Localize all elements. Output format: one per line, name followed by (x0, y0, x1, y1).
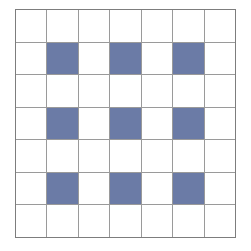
grid-cell-empty[interactable] (110, 10, 141, 42)
grid-cell-empty[interactable] (78, 172, 109, 204)
grid-cell-empty[interactable] (47, 10, 78, 42)
grid-cell-empty[interactable] (204, 10, 235, 42)
grid-cell-empty[interactable] (141, 140, 172, 172)
grid-cell-empty[interactable] (141, 205, 172, 237)
grid-cell-empty[interactable] (16, 172, 47, 204)
grid-cell-filled[interactable] (47, 107, 78, 139)
grid-cell-empty[interactable] (141, 172, 172, 204)
grid-cell-filled[interactable] (47, 42, 78, 74)
grid-cell-empty[interactable] (110, 75, 141, 107)
grid-cell-empty[interactable] (16, 107, 47, 139)
grid-figure (15, 9, 236, 238)
grid-cell-empty[interactable] (204, 107, 235, 139)
grid-row (16, 107, 235, 139)
grid-row (16, 140, 235, 172)
grid-cell-filled[interactable] (110, 42, 141, 74)
grid-cell-empty[interactable] (78, 205, 109, 237)
grid-cell-empty[interactable] (78, 140, 109, 172)
grid-cell-empty[interactable] (204, 75, 235, 107)
grid-cell-empty[interactable] (110, 140, 141, 172)
grid-cell-empty[interactable] (173, 140, 204, 172)
grid-cell-empty[interactable] (141, 10, 172, 42)
grid-cell-empty[interactable] (78, 10, 109, 42)
grid-cell-empty[interactable] (173, 205, 204, 237)
grid-cell-filled[interactable] (110, 107, 141, 139)
grid-cell-empty[interactable] (47, 75, 78, 107)
grid-cell-filled[interactable] (173, 42, 204, 74)
grid-cell-empty[interactable] (173, 75, 204, 107)
grid-cell-empty[interactable] (16, 140, 47, 172)
grid-cell-empty[interactable] (204, 205, 235, 237)
grid-cell-empty[interactable] (173, 10, 204, 42)
grid-cell-filled[interactable] (173, 107, 204, 139)
grid-cell-filled[interactable] (173, 172, 204, 204)
grid-row (16, 172, 235, 204)
grid-cell-empty[interactable] (16, 205, 47, 237)
grid-row (16, 10, 235, 42)
grid-cell-empty[interactable] (110, 205, 141, 237)
grid-cell-filled[interactable] (47, 172, 78, 204)
grid-cell-empty[interactable] (141, 75, 172, 107)
grid-cell-empty[interactable] (16, 75, 47, 107)
grid-table (16, 10, 235, 237)
grid-cell-empty[interactable] (47, 205, 78, 237)
grid-cell-empty[interactable] (47, 140, 78, 172)
grid-row (16, 205, 235, 237)
grid-cell-filled[interactable] (110, 172, 141, 204)
grid-cell-empty[interactable] (78, 42, 109, 74)
grid-body (16, 10, 235, 237)
grid-row (16, 75, 235, 107)
grid-cell-empty[interactable] (204, 140, 235, 172)
grid-cell-empty[interactable] (16, 42, 47, 74)
grid-cell-empty[interactable] (204, 172, 235, 204)
grid-cell-empty[interactable] (141, 42, 172, 74)
grid-cell-empty[interactable] (78, 107, 109, 139)
grid-cell-empty[interactable] (16, 10, 47, 42)
grid-cell-empty[interactable] (78, 75, 109, 107)
grid-cell-empty[interactable] (204, 42, 235, 74)
grid-row (16, 42, 235, 74)
grid-cell-empty[interactable] (141, 107, 172, 139)
